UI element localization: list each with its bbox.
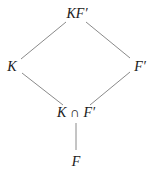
node-compositum: KF′ (67, 7, 88, 21)
node-k: K (7, 60, 16, 74)
node-f-prime: F′ (134, 60, 146, 74)
node-intersection: K ∩ F′ (57, 106, 95, 120)
lattice-diagram: KF′ K F′ K ∩ F′ F (0, 0, 153, 178)
edge-left-meet (22, 73, 63, 105)
node-f: F (72, 155, 81, 169)
edge-top-right (86, 22, 130, 58)
edge-right-meet (90, 72, 130, 105)
edges-layer (0, 0, 153, 178)
edge-top-left (21, 22, 66, 59)
